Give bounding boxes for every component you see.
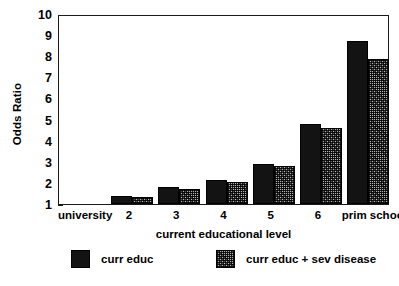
x-axis-tick-label: university <box>58 209 105 222</box>
y-axis-tick-label: 6 <box>28 93 52 106</box>
bar-group <box>300 14 342 204</box>
bar-group <box>111 14 153 204</box>
y-axis-tick-label: 7 <box>28 72 52 85</box>
y-axis-tick-label: 2 <box>28 178 52 191</box>
y-axis-title: Odds Ratio <box>11 64 23 164</box>
bar <box>111 196 132 204</box>
bar <box>368 59 389 204</box>
x-axis-tick-label: 6 <box>294 209 341 222</box>
bar <box>321 128 342 204</box>
x-axis-title: current educational level <box>58 228 389 240</box>
bar <box>132 197 153 204</box>
legend-swatch-curr-educ <box>71 250 90 268</box>
bar <box>347 41 368 204</box>
x-axis-tick-label: 3 <box>153 209 200 222</box>
x-axis-tick-label: prim school <box>342 209 389 222</box>
x-axis-tick-label: 2 <box>105 209 152 222</box>
x-axis-tick-label: 5 <box>247 209 294 222</box>
bar <box>300 124 321 204</box>
y-axis-tick-label: 8 <box>28 51 52 64</box>
bar-group <box>64 14 106 204</box>
y-axis-tick-label: 3 <box>28 157 52 170</box>
bar <box>158 187 179 204</box>
plot-area <box>58 15 389 205</box>
bar <box>179 189 200 204</box>
y-axis-tick-mark <box>58 205 63 206</box>
y-axis-tick-label: 4 <box>28 136 52 149</box>
bar <box>227 182 248 204</box>
y-axis-tick-label: 10 <box>28 9 52 22</box>
y-axis-tick-label: 1 <box>28 199 52 212</box>
legend-swatch-curr-educ-sev-disease <box>216 250 235 268</box>
bar <box>206 180 227 204</box>
bar <box>253 164 274 204</box>
bar-group <box>347 14 389 204</box>
y-axis-tick-label: 5 <box>28 115 52 128</box>
bar-group <box>206 14 248 204</box>
legend-label-curr-educ: curr educ <box>101 253 153 265</box>
bar-group <box>158 14 200 204</box>
chart-legend: curr educ curr educ + sev disease <box>58 249 399 273</box>
legend-entry-curr-educ-sev-disease: curr educ + sev disease <box>216 249 376 269</box>
legend-label-curr-educ-sev-disease: curr educ + sev disease <box>246 253 376 265</box>
odds-ratio-bar-chart: Odds Ratio 12345678910 university23456pr… <box>0 0 399 286</box>
bar <box>274 166 295 204</box>
y-axis-tick-label: 9 <box>28 30 52 43</box>
bar-group <box>253 14 295 204</box>
legend-entry-curr-educ: curr educ <box>71 249 153 269</box>
x-axis-tick-label: 4 <box>200 209 247 222</box>
